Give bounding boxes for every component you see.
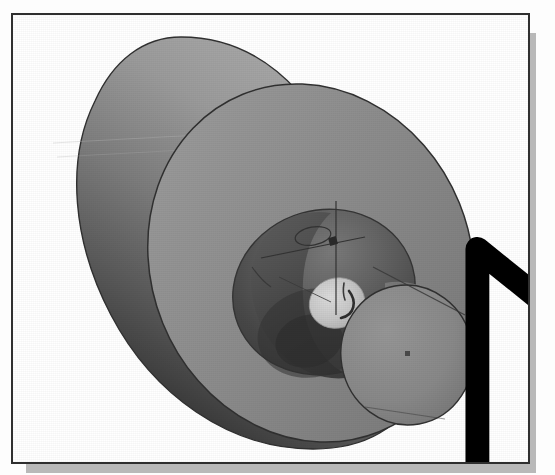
cad-3d-viewport[interactable]: [13, 15, 528, 462]
direction-glyph-label: Direction: [0, 0, 1, 1]
viewport-render-mode-label: Shaded: [0, 0, 1, 1]
boss-center-point: [405, 351, 410, 356]
model-description: Shaded 3D cylinder with counterbored fro…: [0, 0, 1, 1]
scanned-page-background: Shaded Shaded 3D cylinder with counterbo…: [0, 0, 555, 475]
figure-frame: [11, 13, 530, 464]
model-render-svg: [13, 15, 528, 462]
